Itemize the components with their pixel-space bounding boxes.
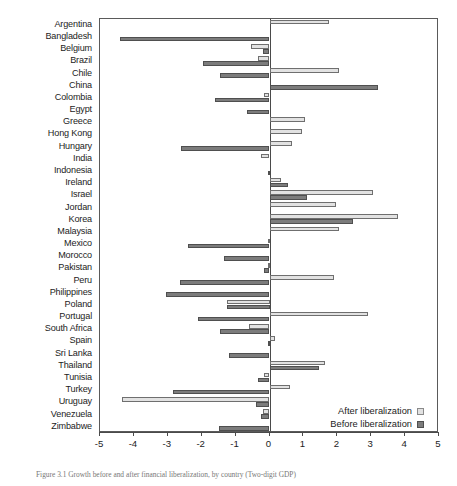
legend-label-after: After liberalization xyxy=(338,406,412,416)
bar-before-liberalization xyxy=(256,402,270,407)
bar-after-liberalization xyxy=(270,129,302,134)
bar-after-liberalization xyxy=(270,214,399,219)
legend-swatch-after-icon xyxy=(417,408,424,415)
bar-before-liberalization xyxy=(261,414,269,419)
bar-after-liberalization xyxy=(270,275,334,280)
country-label: Brazil xyxy=(0,55,92,65)
country-label: Chile xyxy=(0,68,92,78)
bar-after-liberalization xyxy=(263,409,270,414)
country-label-axis: ArgentinaBangladeshBelgiumBrazilChileChi… xyxy=(0,18,96,432)
bar-before-liberalization xyxy=(227,305,269,310)
bar-before-liberalization xyxy=(229,353,270,358)
bar-before-liberalization xyxy=(220,73,269,78)
country-label: Jordan xyxy=(0,202,92,212)
country-label: South Africa xyxy=(0,323,92,333)
x-axis-tick xyxy=(167,432,168,436)
x-axis-tick xyxy=(99,432,100,436)
bar-before-liberalization xyxy=(166,292,269,297)
bar-before-liberalization xyxy=(270,195,307,200)
country-label: Spain xyxy=(0,335,92,345)
bar-after-liberalization xyxy=(261,154,269,159)
bar-after-liberalization xyxy=(268,239,270,244)
bar-before-liberalization xyxy=(203,61,269,66)
figure-caption: Figure 3.1 Growth before and after finan… xyxy=(36,470,446,479)
legend-item-before: Before liberalization xyxy=(330,419,424,429)
country-label: Colombia xyxy=(0,92,92,102)
x-axis-tick xyxy=(302,432,303,436)
bar-after-liberalization xyxy=(270,68,339,73)
bar-before-liberalization xyxy=(180,280,270,285)
country-label: Israel xyxy=(0,189,92,199)
x-axis-tick-label: 5 xyxy=(423,438,453,449)
bar-before-liberalization xyxy=(215,98,269,103)
bar-before-liberalization xyxy=(270,219,353,224)
country-label: Turkey xyxy=(0,384,92,394)
x-axis-tick xyxy=(438,432,439,436)
country-label: China xyxy=(0,80,92,90)
country-label: Malaysia xyxy=(0,226,92,236)
country-label: Egypt xyxy=(0,104,92,114)
country-label: Korea xyxy=(0,214,92,224)
legend-swatch-before-icon xyxy=(417,421,424,428)
country-label: Bangladesh xyxy=(0,31,92,41)
bar-after-liberalization xyxy=(270,202,336,207)
country-label: Sri Lanka xyxy=(0,348,92,358)
country-label: Venezuela xyxy=(0,409,92,419)
x-axis-tick xyxy=(269,432,270,436)
country-label: Ireland xyxy=(0,177,92,187)
bar-before-liberalization xyxy=(268,341,270,346)
bar-after-liberalization xyxy=(270,20,329,25)
x-axis-tick-label: 0 xyxy=(254,438,284,449)
bar-after-liberalization xyxy=(227,300,269,305)
x-axis-tick-label: -2 xyxy=(186,438,216,449)
x-axis-tick xyxy=(133,432,134,436)
bar-after-liberalization xyxy=(258,56,270,61)
bar-after-liberalization xyxy=(270,178,282,183)
bar-before-liberalization xyxy=(220,329,269,334)
bar-before-liberalization xyxy=(181,146,269,151)
bar-before-liberalization xyxy=(224,256,270,261)
country-label: Argentina xyxy=(0,19,92,29)
bar-after-liberalization xyxy=(268,263,270,268)
bar-after-liberalization xyxy=(251,44,270,49)
legend-item-after: After liberalization xyxy=(338,406,424,416)
country-label: Mexico xyxy=(0,238,92,248)
bar-after-liberalization xyxy=(270,336,275,341)
bar-after-liberalization xyxy=(264,93,269,98)
country-label: Portugal xyxy=(0,311,92,321)
bar-after-liberalization xyxy=(264,373,269,378)
legend: After liberalization Before liberalizati… xyxy=(306,406,424,434)
x-axis-tick-label: -1 xyxy=(220,438,250,449)
bar-before-liberalization xyxy=(173,390,270,395)
bar-after-liberalization xyxy=(270,141,292,146)
bar-before-liberalization xyxy=(219,426,270,431)
bar-after-liberalization xyxy=(270,117,306,122)
x-axis-tick-label: 2 xyxy=(321,438,351,449)
bar-after-liberalization xyxy=(270,227,339,232)
x-axis-tick-label: 1 xyxy=(287,438,317,449)
country-label: Indonesia xyxy=(0,165,92,175)
bar-before-liberalization xyxy=(264,268,269,273)
x-axis: -5-4-3-2-1012345 xyxy=(99,432,438,458)
country-label: Hong Kong xyxy=(0,128,92,138)
country-label: Belgium xyxy=(0,43,92,53)
x-axis-tick-label: -4 xyxy=(118,438,148,449)
country-label: India xyxy=(0,153,92,163)
bar-before-liberalization xyxy=(270,183,289,188)
country-label: Pakistan xyxy=(0,262,92,272)
bar-before-liberalization xyxy=(120,37,269,42)
country-label: Hungary xyxy=(0,141,92,151)
bar-before-liberalization xyxy=(270,85,378,90)
bar-after-liberalization xyxy=(249,324,269,329)
bar-before-liberalization xyxy=(270,366,319,371)
x-axis-tick-label: 4 xyxy=(389,438,419,449)
bar-before-liberalization xyxy=(258,378,270,383)
country-label: Peru xyxy=(0,275,92,285)
x-axis-tick-label: -5 xyxy=(84,438,114,449)
bar-before-liberalization xyxy=(263,49,270,54)
figure-financial-liberalization-growth: ArgentinaBangladeshBelgiumBrazilChileChi… xyxy=(0,0,457,486)
country-label: Thailand xyxy=(0,360,92,370)
bar-before-liberalization xyxy=(268,171,270,176)
bar-after-liberalization xyxy=(270,312,368,317)
x-axis-tick xyxy=(235,432,236,436)
